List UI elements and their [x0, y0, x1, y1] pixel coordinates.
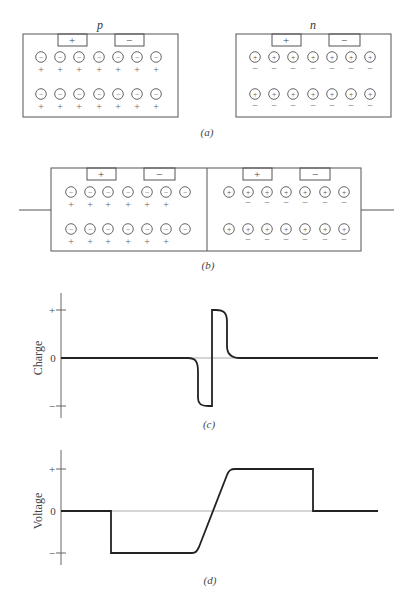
- ion-symbol: +: [291, 90, 295, 99]
- carrier-symbol: −: [264, 197, 270, 208]
- p-label: p: [96, 18, 103, 32]
- voltage-ytick-minus-label: −: [49, 547, 55, 559]
- carrier-symbol: −: [310, 100, 316, 111]
- carrier-symbol: −: [322, 197, 328, 208]
- ion-symbol: −: [39, 90, 43, 99]
- charge-chart: [56, 293, 378, 418]
- carrier-symbol: −: [283, 234, 289, 245]
- b-p-contact-minus-label: −: [156, 168, 162, 180]
- ion-symbol: −: [135, 90, 139, 99]
- ion-symbol: −: [126, 188, 130, 197]
- carrier-symbol: −: [341, 197, 347, 208]
- ion-symbol: +: [265, 188, 269, 197]
- ion-symbol: −: [154, 90, 158, 99]
- carrier-symbol: −: [283, 197, 289, 208]
- carrier-symbol: +: [125, 199, 131, 210]
- ion-symbol: −: [39, 53, 43, 62]
- carrier-symbol: −: [348, 100, 354, 111]
- ion-symbol: −: [154, 53, 158, 62]
- charge-ytick-plus-label: +: [49, 304, 55, 316]
- carrier-symbol: +: [125, 236, 131, 247]
- carrier-symbol: +: [144, 199, 150, 210]
- ion-symbol: +: [291, 53, 295, 62]
- carrier-symbol: +: [68, 199, 74, 210]
- charge-y-label: Charge: [31, 341, 45, 375]
- ion-symbol: +: [342, 188, 346, 197]
- carrier-symbol: −: [252, 100, 258, 111]
- carrier-symbol: −: [264, 234, 270, 245]
- charge-ytick-minus-label: −: [49, 400, 55, 412]
- ion-symbol: +: [368, 53, 372, 62]
- ion-symbol: −: [77, 53, 81, 62]
- ion-symbol: +: [303, 225, 307, 234]
- carrier-symbol: −: [322, 234, 328, 245]
- ion-symbol: −: [69, 225, 73, 234]
- carrier-symbol: +: [96, 101, 102, 112]
- ion-symbol: −: [135, 53, 139, 62]
- ion-symbol: −: [58, 90, 62, 99]
- ion-symbol: +: [311, 90, 315, 99]
- ion-symbol: −: [69, 188, 73, 197]
- carrier-symbol: −: [329, 63, 335, 74]
- carrier-symbol: −: [271, 100, 277, 111]
- carrier-symbol: −: [252, 63, 258, 74]
- ion-symbol: +: [253, 53, 257, 62]
- carrier-symbol: −: [290, 63, 296, 74]
- ion-symbol: −: [58, 53, 62, 62]
- ion-symbol: +: [368, 90, 372, 99]
- carrier-symbol: +: [163, 236, 169, 247]
- carrier-symbol: −: [302, 197, 308, 208]
- ion-symbol: −: [164, 188, 168, 197]
- ion-symbol: +: [349, 53, 353, 62]
- carrier-symbol: +: [38, 101, 44, 112]
- ion-symbol: −: [183, 188, 187, 197]
- carrier-symbol: −: [302, 234, 308, 245]
- n-contact-minus-label: −: [341, 34, 347, 46]
- carrier-symbol: +: [96, 64, 102, 75]
- ion-symbol: +: [272, 53, 276, 62]
- carrier-symbol: +: [87, 236, 93, 247]
- carrier-symbol: +: [134, 101, 140, 112]
- carrier-symbol: +: [153, 64, 159, 75]
- ion-symbol: +: [246, 188, 250, 197]
- b-n-contact-minus-label: −: [312, 168, 318, 180]
- ion-symbol: +: [284, 188, 288, 197]
- carrier-symbol: +: [87, 199, 93, 210]
- voltage-y-label: Voltage: [31, 493, 45, 529]
- carrier-symbol: −: [367, 100, 373, 111]
- carrier-symbol: −: [310, 63, 316, 74]
- ion-symbol: −: [145, 188, 149, 197]
- carrier-symbol: −: [341, 234, 347, 245]
- ion-symbol: −: [88, 188, 92, 197]
- carrier-symbol: +: [105, 236, 111, 247]
- ion-symbol: +: [330, 53, 334, 62]
- carrier-symbol: −: [367, 63, 373, 74]
- carrier-symbol: +: [144, 236, 150, 247]
- ion-symbol: −: [77, 90, 81, 99]
- ion-symbol: +: [272, 90, 276, 99]
- ion-symbol: −: [145, 225, 149, 234]
- ion-symbol: −: [126, 225, 130, 234]
- carrier-symbol: +: [163, 199, 169, 210]
- b-p-contact-plus-label: +: [98, 168, 104, 180]
- carrier-symbol: −: [271, 63, 277, 74]
- carrier-symbol: +: [38, 64, 44, 75]
- caption-a: (a): [201, 126, 214, 139]
- ion-symbol: +: [253, 90, 257, 99]
- ion-symbol: +: [311, 53, 315, 62]
- panel-b: [19, 168, 394, 251]
- voltage-ytick-zero-label: 0: [50, 505, 56, 517]
- carrier-symbol: +: [115, 101, 121, 112]
- ion-symbol: −: [97, 53, 101, 62]
- caption-c: (c): [203, 418, 216, 431]
- carrier-symbol: −: [245, 197, 251, 208]
- carrier-symbol: +: [57, 101, 63, 112]
- p-contact-plus-label: +: [69, 34, 75, 46]
- carrier-symbol: +: [76, 64, 82, 75]
- b-n-contact-plus-label: +: [254, 168, 260, 180]
- ion-symbol: +: [227, 188, 231, 197]
- p-contact-minus-label: −: [126, 34, 132, 46]
- ion-symbol: +: [323, 188, 327, 197]
- caption-b: (b): [202, 259, 215, 272]
- ion-symbol: +: [349, 90, 353, 99]
